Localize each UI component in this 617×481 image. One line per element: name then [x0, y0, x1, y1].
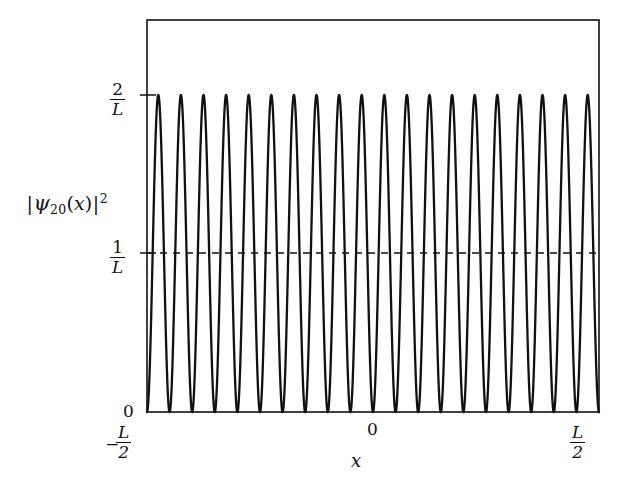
x-tick-label-negative-half-l: − L 2 — [116, 424, 131, 461]
x-tick-negative-sign: − — [105, 436, 119, 453]
y-tick-two-denominator: L — [110, 100, 125, 118]
probability-density-figure: |ψ20(x)|2 2 L 1 L 0 − L 2 0 L 2 x — [0, 0, 617, 481]
x-tick-pos-numerator: L — [570, 424, 585, 443]
y-title-psi: ψ — [34, 191, 51, 215]
y-axis-title: |ψ20(x)|2 — [26, 193, 108, 217]
y-title-exponent: 2 — [100, 191, 108, 206]
x-tick-label-half-l: L 2 — [570, 424, 585, 461]
plot-frame — [147, 20, 599, 412]
y-tick-two-numerator: 2 — [110, 81, 125, 100]
x-tick-pos-denominator: 2 — [570, 443, 585, 461]
y-tick-label-two-over-l: 2 L — [110, 81, 125, 118]
y-title-bar-open: | — [26, 192, 34, 214]
y-title-paren-open: ( — [66, 192, 74, 214]
y-tick-label-one-over-l: 1 L — [110, 239, 125, 276]
x-tick-label-zero: 0 — [367, 421, 378, 438]
y-tick-one-denominator: L — [110, 258, 125, 276]
y-title-bar-close: | — [92, 192, 100, 214]
y-title-subscript: 20 — [50, 202, 66, 217]
plot-canvas — [0, 0, 617, 481]
y-title-variable: x — [74, 192, 85, 214]
x-axis-title: x — [351, 452, 361, 470]
y-tick-one-numerator: 1 — [110, 239, 125, 258]
y-tick-label-zero: 0 — [123, 403, 134, 420]
